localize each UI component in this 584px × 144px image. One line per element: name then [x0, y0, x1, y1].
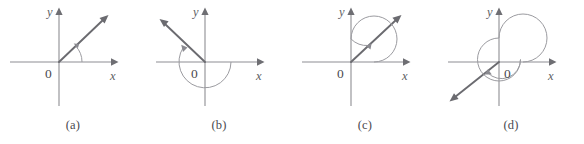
x-axis-arrowhead [403, 58, 411, 66]
panel-caption-b: (b) [146, 118, 292, 133]
panel-b: y x 0 (b) [146, 0, 292, 144]
x-axis-label: x [109, 69, 116, 83]
x-axis-arrowhead [257, 58, 265, 66]
terminal-ray-group-d [450, 62, 500, 102]
angle-sweep-arc [76, 46, 82, 62]
y-axis-arrowhead [55, 8, 62, 16]
x-axis-arrowhead [549, 58, 557, 66]
y-axis-arrowhead [201, 8, 208, 16]
x-axis-arrowhead [111, 58, 119, 66]
panel-c: y x 0 (c) [292, 0, 438, 144]
terminal-ray [455, 62, 499, 97]
terminal-ray-group-a [59, 15, 109, 62]
x-axis-label: x [401, 69, 408, 83]
terminal-ray-group-b [160, 19, 206, 62]
axes-group-b [156, 8, 265, 107]
x-axis-label: x [547, 69, 554, 83]
axes-group-d [448, 8, 557, 107]
panel-caption-a: (a) [0, 118, 146, 133]
angle-figure-strip: y x 0 (a) y x 0 (b) [0, 0, 584, 144]
terminal-ray [165, 24, 205, 62]
origin-label: 0 [337, 66, 344, 81]
x-axis-label: x [255, 69, 262, 83]
sweep-spiral-group-d [478, 14, 548, 81]
y-axis-label: y [337, 5, 345, 19]
panel-d: y x 0 (d) [438, 0, 584, 144]
y-axis-label: y [485, 5, 493, 19]
y-axis-label: y [45, 5, 53, 19]
y-axis-label: y [191, 5, 199, 19]
y-axis-arrowhead [495, 8, 502, 16]
origin-label: 0 [45, 66, 52, 81]
panel-caption-c: (c) [292, 118, 438, 133]
origin-label: 0 [191, 66, 198, 81]
origin-label: 0 [504, 66, 511, 81]
panel-a: y x 0 (a) [0, 0, 146, 144]
panel-caption-d: (d) [438, 118, 584, 133]
angle-sweep-arrowhead [181, 45, 187, 52]
y-axis-arrowhead [347, 8, 354, 16]
